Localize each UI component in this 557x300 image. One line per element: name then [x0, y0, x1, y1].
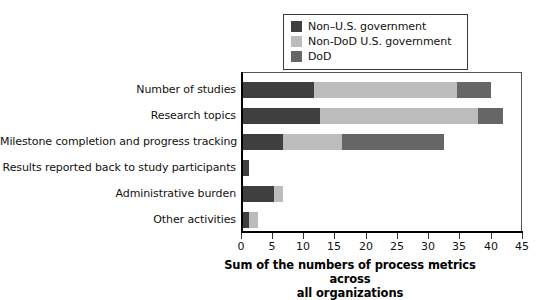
legend-item-non-dod-us-government: Non-DoD U.S. government [291, 34, 460, 49]
bar-segment-non-dod-us-government [320, 108, 478, 124]
tick-mark [397, 233, 398, 239]
legend-swatch-dod [291, 51, 302, 62]
tick-label-40: 40 [476, 240, 506, 253]
tick-mark [491, 233, 492, 239]
tick-label-5: 5 [257, 240, 287, 253]
tick-label-20: 20 [351, 240, 381, 253]
category-label-research-topics: Research topics [0, 110, 236, 122]
bar-segment-non-us-government [243, 160, 249, 176]
tick-mark [522, 233, 523, 239]
tick-label-45: 45 [507, 240, 537, 253]
bar-segment-non-dod-us-government [249, 212, 258, 228]
legend-item-dod: DoD [291, 49, 460, 64]
x-axis-title-line2: all organizations [205, 286, 495, 300]
category-label-results-reported-back: Results reported back to study participa… [0, 162, 236, 174]
tick-mark [272, 233, 273, 239]
tick-label-25: 25 [382, 240, 412, 253]
legend-swatch-non-dod-us-government [291, 36, 302, 47]
category-label-administrative-burden: Administrative burden [0, 188, 236, 200]
bar-segment-non-us-government [243, 82, 314, 98]
tick-mark [334, 233, 335, 239]
legend-swatch-non-us-government [291, 21, 302, 32]
legend-label-non-dod-us-government: Non-DoD U.S. government [308, 36, 451, 47]
bar-segment-non-dod-us-government [283, 134, 342, 150]
legend-item-non-us-government: Non–U.S. government [291, 19, 460, 34]
y-axis-category-labels: Number of studies Research topics Milest… [0, 72, 236, 232]
table-row [243, 82, 491, 98]
tick-label-35: 35 [444, 240, 474, 253]
table-row [243, 186, 283, 202]
category-label-other-activities: Other activities [0, 214, 236, 226]
tick-label-0: 0 [226, 240, 256, 253]
bar-segment-non-dod-us-government [274, 186, 283, 202]
chart-legend: Non–U.S. government Non-DoD U.S. governm… [283, 14, 468, 70]
legend-label-non-us-government: Non–U.S. government [308, 21, 426, 32]
x-axis-title: Sum of the numbers of process metrics ac… [205, 258, 495, 300]
bar-segment-non-dod-us-government [314, 82, 457, 98]
x-axis-title-line1: Sum of the numbers of process metrics ac… [205, 258, 495, 286]
bar-segment-dod [478, 108, 503, 124]
tick-mark [303, 233, 304, 239]
tick-mark [428, 233, 429, 239]
bar-segment-dod [342, 134, 444, 150]
tick-label-15: 15 [319, 240, 349, 253]
table-row [243, 160, 249, 176]
bars-layer [243, 72, 522, 232]
table-row [243, 134, 444, 150]
bar-segment-non-us-government [243, 108, 320, 124]
table-row [243, 212, 258, 228]
tick-mark [459, 233, 460, 239]
table-row [243, 108, 503, 124]
bar-segment-non-us-government [243, 186, 274, 202]
bar-segment-dod [457, 82, 491, 98]
tick-label-30: 30 [413, 240, 443, 253]
category-label-milestone-completion: Milestone completion and progress tracki… [0, 136, 236, 148]
tick-mark [366, 233, 367, 239]
tick-mark [241, 233, 242, 239]
legend-label-dod: DoD [308, 51, 331, 62]
tick-label-10: 10 [288, 240, 318, 253]
bar-segment-non-us-government [243, 134, 283, 150]
category-label-number-of-studies: Number of studies [0, 84, 236, 96]
